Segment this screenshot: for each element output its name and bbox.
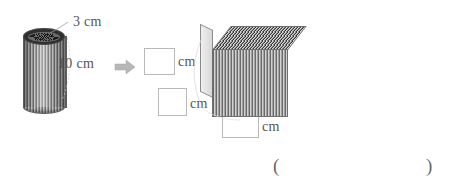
cylinder-top-inner-face [28,32,60,42]
answer-paren-close: ) [426,155,432,177]
right-arrow-icon [114,58,136,76]
prism-top-face [212,26,307,50]
cylinder-height-label: 10 cm [58,56,94,72]
cylinder-body [23,36,67,108]
answer-box-first[interactable] [144,48,175,75]
answer-box-second[interactable] [158,88,187,116]
figure-canvas: 3 cm 10 cm cm cm cm ( ) [0,0,455,191]
cylinder-diameter-label: 3 cm [73,14,102,30]
answer-paren-open: ( [273,155,279,177]
unit-label-first: cm [178,54,196,70]
prism-figure [200,26,300,118]
unit-label-third: cm [262,119,280,135]
prism-front-face [212,49,288,117]
cylinder-body-shading [24,36,66,108]
answer-box-third[interactable] [222,115,259,138]
arrow-shape [115,60,135,74]
